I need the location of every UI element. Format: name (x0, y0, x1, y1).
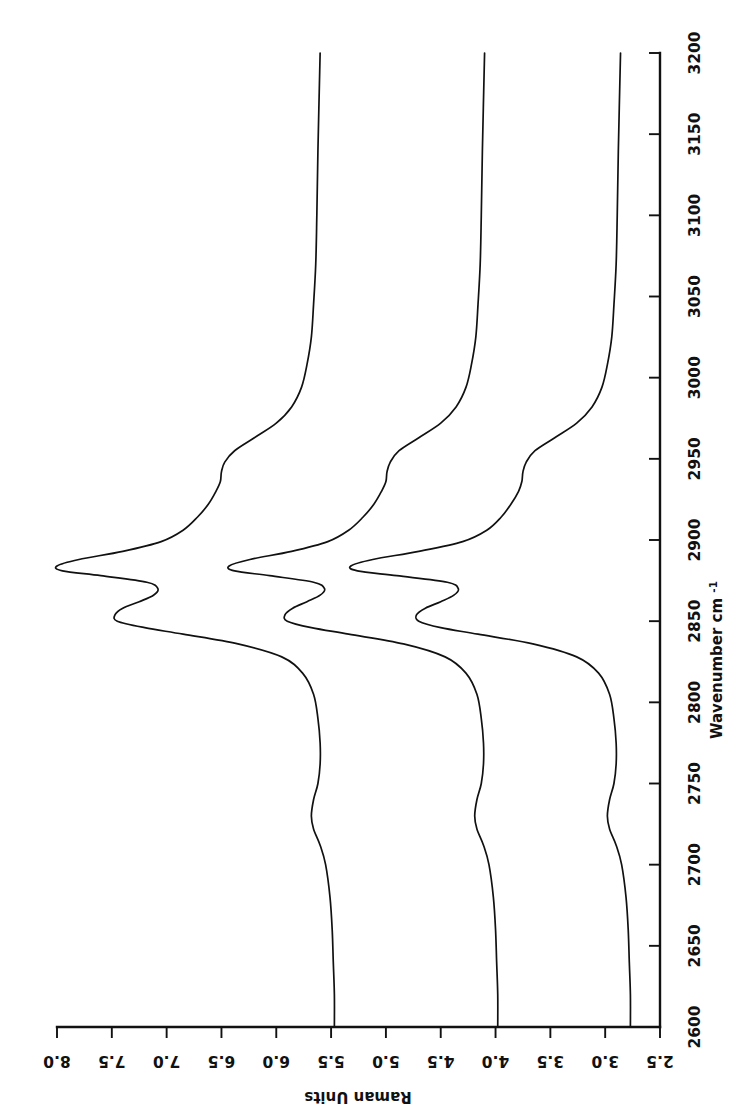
svg-text:3150: 3150 (686, 112, 704, 155)
raman-units-tick-label: 4.5 (427, 1052, 454, 1070)
svg-text:2.5: 2.5 (646, 1052, 673, 1070)
raman-units-tick-label: 8.0 (43, 1052, 71, 1070)
svg-text:2800: 2800 (686, 681, 704, 724)
raman-units-tick-label: 7.5 (98, 1052, 125, 1070)
svg-text:2750: 2750 (686, 762, 704, 805)
spectrum-curve (56, 53, 335, 1027)
svg-text:3.0: 3.0 (591, 1052, 619, 1070)
wavenumber-axis-title-text: Wavenumber cm (708, 598, 726, 739)
wavenumber-tick-label: 2600 (686, 1005, 704, 1048)
svg-text:5.0: 5.0 (372, 1052, 400, 1070)
raman-units-tick-label: 6.0 (262, 1052, 290, 1070)
wavenumber-tick-label: 3150 (686, 112, 704, 155)
wavenumber-tick-label: 2850 (686, 599, 704, 642)
wavenumber-tick-label: 3200 (686, 31, 704, 74)
raman-spectrum-figure: 2600265027002750280028502900295030003050… (0, 0, 755, 1115)
axes-group (57, 53, 660, 1027)
wavenumber-tick-label: 2750 (686, 762, 704, 805)
wavenumber-tick-group (649, 53, 660, 1027)
svg-text:6.5: 6.5 (208, 1052, 235, 1070)
wavenumber-tick-label: 2650 (686, 924, 704, 967)
wavenumber-axis-title: Wavenumber cm -1 (707, 581, 726, 739)
spectrum-curve (350, 53, 631, 1027)
raman-units-tick-label: 6.5 (208, 1052, 235, 1070)
wavenumber-tick-label: 3000 (686, 356, 704, 399)
svg-text:3200: 3200 (686, 31, 704, 74)
svg-text:3000: 3000 (686, 356, 704, 399)
raman-units-tick-label: 3.5 (537, 1052, 564, 1070)
svg-text:2700: 2700 (686, 843, 704, 886)
svg-text:2950: 2950 (686, 437, 704, 480)
svg-text:4.5: 4.5 (427, 1052, 454, 1070)
svg-text:3100: 3100 (686, 194, 704, 237)
spectrum-curve (228, 53, 498, 1027)
raman-units-tick-label: 7.0 (153, 1052, 181, 1070)
wavenumber-tick-label: 2800 (686, 681, 704, 724)
svg-text:5.5: 5.5 (317, 1052, 344, 1070)
svg-text:6.0: 6.0 (262, 1052, 290, 1070)
wavenumber-ticklabel-group: 2600265027002750280028502900295030003050… (686, 31, 704, 1048)
raman-units-tick-label: 5.0 (372, 1052, 400, 1070)
svg-text:4.0: 4.0 (482, 1052, 510, 1070)
svg-text:2650: 2650 (686, 924, 704, 967)
wavenumber-axis-title-superscript: -1 (707, 581, 719, 593)
wavenumber-tick-label: 2700 (686, 843, 704, 886)
raman-units-tick-label: 4.0 (482, 1052, 510, 1070)
raman-units-tick-label: 2.5 (646, 1052, 673, 1070)
wavenumber-tick-label: 2900 (686, 518, 704, 561)
svg-text:8.0: 8.0 (43, 1052, 71, 1070)
raman-units-tick-label: 5.5 (317, 1052, 344, 1070)
spectra-group (56, 53, 631, 1027)
svg-text:Wavenumber cm -1: Wavenumber cm -1 (707, 581, 726, 739)
svg-text:7.5: 7.5 (98, 1052, 125, 1070)
wavenumber-tick-label: 3100 (686, 194, 704, 237)
raman-units-tick-group (57, 1027, 660, 1038)
raman-units-axis-title-text: Raman Units (304, 1088, 411, 1106)
wavenumber-tick-label: 3050 (686, 275, 704, 318)
raman-units-tick-label: 3.0 (591, 1052, 619, 1070)
svg-text:2600: 2600 (686, 1005, 704, 1048)
svg-text:7.0: 7.0 (153, 1052, 181, 1070)
raman-units-ticklabel-group: 2.53.03.54.04.55.05.56.06.57.07.58.0 (43, 1052, 674, 1070)
wavenumber-tick-label: 2950 (686, 437, 704, 480)
raman-spectrum-plot: 2600265027002750280028502900295030003050… (0, 0, 755, 1115)
svg-text:3.5: 3.5 (537, 1052, 564, 1070)
raman-units-axis-title: Raman Units (304, 1088, 411, 1106)
svg-text:2900: 2900 (686, 518, 704, 561)
svg-text:2850: 2850 (686, 599, 704, 642)
svg-text:3050: 3050 (686, 275, 704, 318)
